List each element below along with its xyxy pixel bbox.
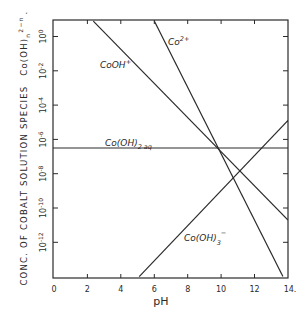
y-axis-label-formula: Co(OH) (19, 38, 29, 76)
svg-text:10-2: 10-2 (37, 63, 48, 79)
x-tick-label: 14. (284, 285, 297, 294)
label-cooh3-minus: Co(OH)3− (184, 229, 226, 247)
y-axis-label-sup: 2−n (17, 16, 24, 32)
y-axis-label: CONC. OF COBALT SOLUTION SPECIES Co(OH)n… (17, 10, 31, 285)
svg-text:10-10: 10-10 (37, 198, 48, 218)
y-tick-label-m10: 10-10 (37, 198, 48, 218)
x-tick-label: 10 (216, 285, 226, 294)
chart-root: 0 2 4 6 8 10 12 14. pH 100 10-2 10-4 10-… (0, 0, 308, 320)
x-tick-labels: 0 2 4 6 8 10 12 14. (51, 285, 296, 294)
svg-text:100: 100 (37, 29, 48, 43)
svg-text:10-12: 10-12 (37, 232, 48, 252)
svg-text:CONC. OF COBALT SOLUTION SPECI: CONC. OF COBALT SOLUTION SPECIES Co(OH)n… (17, 10, 31, 285)
y-tick-label-m8: 10-8 (37, 165, 48, 181)
y-tick-label-0: 100 (37, 29, 48, 43)
svg-text:10-8: 10-8 (37, 165, 48, 181)
y-axis-label-main: CONC. OF COBALT SOLUTION SPECIES (19, 86, 29, 286)
x-tick-label: 4 (118, 285, 123, 294)
y-tick-labels: 100 10-2 10-4 10-6 10-8 10-10 10-12 (37, 29, 48, 252)
label-cooh-plus: CoOH+ (100, 58, 131, 70)
svg-text:10-4: 10-4 (37, 97, 48, 113)
label-co2plus: Co2+ (168, 35, 189, 47)
label-cooh2-aq: Co(OH)2 aq (105, 138, 152, 151)
y-tick-label-m6: 10-6 (37, 131, 48, 147)
series-line-cooh-plus (93, 21, 288, 220)
x-tick-label: 0 (51, 285, 56, 294)
y-axis-label-end: . (19, 10, 29, 14)
x-tick-label: 8 (185, 285, 190, 294)
y-tick-label-m2: 10-2 (37, 63, 48, 79)
y-axis-label-sub: n (24, 33, 31, 38)
series-lines (53, 21, 288, 277)
y-tick-label-m12: 10-12 (37, 232, 48, 252)
y-tick-label-m4: 10-4 (37, 97, 48, 113)
svg-text:10-6: 10-6 (37, 131, 48, 147)
plot-frame (53, 20, 288, 278)
x-tick-label: 2 (85, 285, 90, 294)
x-tick-label: 6 (152, 285, 157, 294)
x-ticks (87, 20, 254, 278)
x-tick-label: 12 (249, 285, 259, 294)
x-axis-label: pH (153, 295, 168, 308)
y-ticks (53, 37, 288, 243)
